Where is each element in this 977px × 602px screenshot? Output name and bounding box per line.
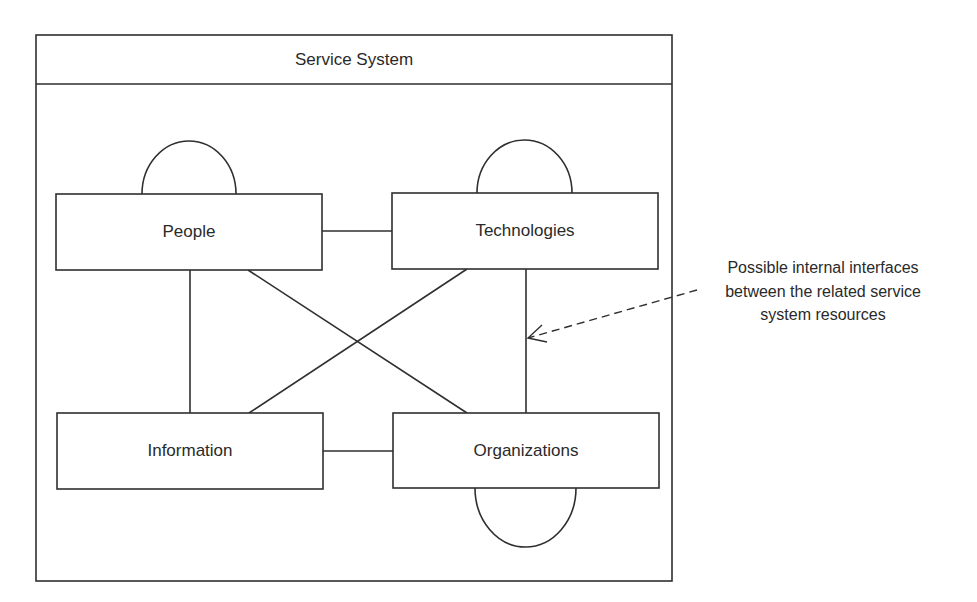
service-system-frame [36, 35, 672, 581]
technologies-self-interface-arc [477, 140, 572, 193]
annotation-line-2: between the related service [692, 280, 954, 304]
annotation-line-3: system resources [692, 303, 954, 327]
organizations-label: Organizations [393, 413, 659, 488]
annotation-text: Possible internal interfaces between the… [692, 256, 954, 327]
annotation-line-1: Possible internal interfaces [692, 256, 954, 280]
information-label: Information [57, 413, 323, 489]
organizations-self-interface-arc [475, 488, 576, 547]
technologies-label: Technologies [392, 193, 658, 269]
people-label: People [56, 194, 322, 270]
diagram-title: Service System [36, 35, 672, 84]
people-self-interface-arc [142, 141, 236, 194]
